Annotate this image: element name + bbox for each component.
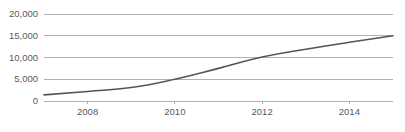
x-tick-label: 2008 (77, 106, 98, 117)
chart-canvas: 05,00010,00015,00020,000 200820102012201… (0, 0, 405, 132)
x-tick-label: 2012 (252, 106, 273, 117)
line-chart: 05,00010,00015,00020,000 200820102012201… (0, 0, 405, 132)
y-tick-label: 15,000 (9, 30, 38, 41)
y-tick-label: 10,000 (9, 52, 38, 63)
y-tick-label: 0 (33, 95, 38, 106)
y-tick-label: 20,000 (9, 8, 38, 19)
x-tick-label: 2010 (164, 106, 185, 117)
x-tick-label: 2014 (339, 106, 360, 117)
y-tick-label: 5,000 (14, 73, 38, 84)
